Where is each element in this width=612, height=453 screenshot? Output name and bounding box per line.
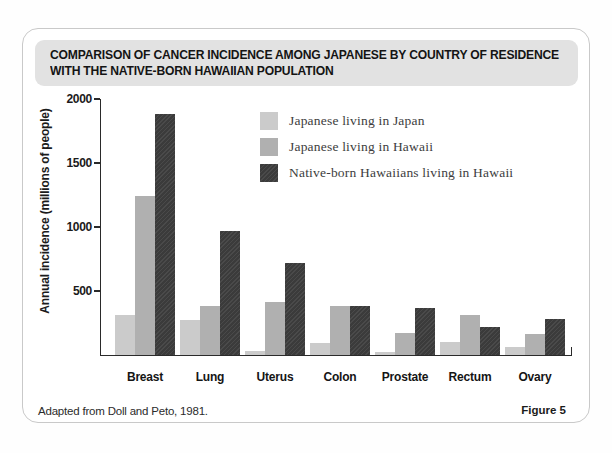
legend-item: Japanese living in Hawaii [260, 138, 513, 156]
bar-prostate-series1 [375, 352, 395, 355]
y-tick [94, 98, 100, 100]
bar-colon-series3 [350, 306, 370, 355]
y-tick [94, 162, 100, 164]
y-tick-label: 2000 [58, 92, 92, 106]
y-tick-label: 1000 [58, 220, 92, 234]
bar-rectum-series1 [440, 342, 460, 355]
bar-uterus-series3 [285, 263, 305, 355]
legend-item: Japanese living in Japan [260, 112, 513, 130]
figure-label: Figure 5 [521, 404, 566, 416]
bar-colon-series1 [310, 343, 330, 355]
bar-rectum-series2 [460, 315, 480, 355]
legend-swatch-series2 [260, 138, 278, 156]
x-category-label-breast: Breast [112, 370, 178, 384]
bar-ovary-series3 [545, 319, 565, 355]
bar-prostate-series2 [395, 333, 415, 355]
x-category-label-lung: Lung [177, 370, 243, 384]
y-tick [94, 290, 100, 292]
bar-lung-series1 [180, 320, 200, 355]
bar-ovary-series1 [505, 347, 525, 355]
figure-page: COMPARISON OF CANCER INCIDENCE AMONG JAP… [0, 0, 612, 453]
legend: Japanese living in JapanJapanese living … [260, 112, 513, 190]
x-axis-end-cap [571, 347, 573, 355]
bar-prostate-series3 [415, 308, 435, 355]
legend-swatch-series3 [260, 164, 278, 182]
legend-swatch-series1 [260, 112, 278, 130]
bar-lung-series3 [220, 231, 240, 355]
legend-label: Japanese living in Japan [289, 113, 425, 129]
x-category-label-colon: Colon [307, 370, 373, 384]
legend-label: Native-born Hawaiians living in Hawaii [289, 165, 513, 181]
legend-label: Japanese living in Hawaii [289, 139, 433, 155]
bar-colon-series2 [330, 306, 350, 355]
y-tick-label: 500 [58, 284, 92, 298]
legend-item: Native-born Hawaiians living in Hawaii [260, 164, 513, 182]
bar-rectum-series3 [480, 327, 500, 355]
y-tick [94, 226, 100, 228]
bar-ovary-series2 [525, 334, 545, 355]
y-axis [100, 99, 102, 356]
bar-breast-series1 [115, 315, 135, 355]
bar-lung-series2 [200, 306, 220, 355]
bar-breast-series2 [135, 196, 155, 355]
x-category-label-uterus: Uterus [242, 370, 308, 384]
y-tick-label: 1500 [58, 156, 92, 170]
x-category-label-prostate: Prostate [372, 370, 438, 384]
bar-breast-series3 [155, 114, 175, 355]
source-note: Adapted from Doll and Peto, 1981. [38, 405, 208, 417]
bar-chart: Annual incidence (millions of people) Ja… [0, 0, 612, 453]
y-axis-title: Annual incidence (millions of people) [38, 83, 54, 339]
x-category-label-rectum: Rectum [437, 370, 503, 384]
bar-uterus-series1 [245, 351, 265, 355]
bar-uterus-series2 [265, 302, 285, 355]
x-category-label-ovary: Ovary [502, 370, 568, 384]
